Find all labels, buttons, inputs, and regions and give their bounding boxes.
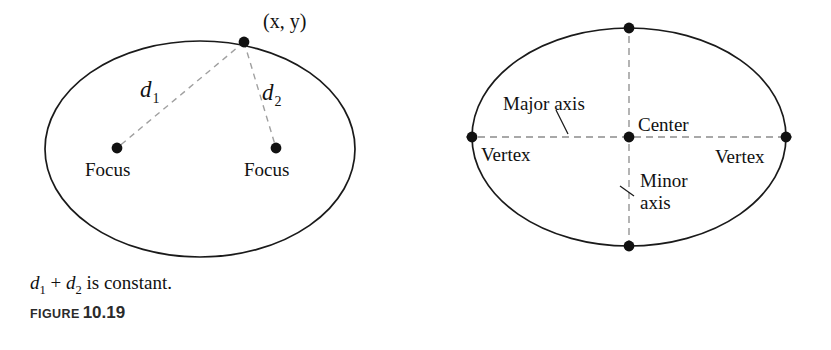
- distance-line-d1: [117, 42, 244, 148]
- d1-label: d1: [140, 77, 160, 106]
- d2-label: d2: [262, 80, 282, 109]
- center-dot: [624, 132, 635, 143]
- note-d1: d: [30, 272, 40, 293]
- focus-right-label: Focus: [244, 159, 289, 180]
- caption-number-left: 10.19: [83, 303, 126, 322]
- ellipse-foci-diagram: (x, y) d1 d2 Focus Focus: [0, 0, 420, 270]
- center-label: Center: [638, 114, 689, 135]
- ellipse-axes-diagram: Major axis Center Vertex Vertex Minor ax…: [420, 0, 831, 290]
- co-vertex-bottom-dot: [624, 241, 635, 252]
- vertex-left-dot: [467, 132, 478, 143]
- ellipse-outline: [45, 41, 355, 257]
- vertex-right-label: Vertex: [715, 146, 765, 167]
- note-tail: is constant.: [82, 272, 172, 293]
- vertex-right-dot: [781, 132, 792, 143]
- point-xy-dot: [239, 37, 250, 48]
- figure-10-19-caption: FIGURE10.19: [30, 303, 125, 323]
- focus-left-label: Focus: [85, 159, 130, 180]
- figure-page: (x, y) d1 d2 Focus Focus d1 + d2 is cons…: [0, 0, 831, 350]
- major-axis-label: Major axis: [503, 93, 585, 114]
- minor-axis-leader-line: [620, 186, 634, 196]
- vertex-left-label: Vertex: [481, 144, 531, 165]
- figure-10-20-panel: Major axis Center Vertex Vertex Minor ax…: [420, 0, 831, 350]
- focus-left-dot: [112, 143, 123, 154]
- minor-axis-label-line1: Minor: [640, 170, 688, 191]
- caption-word-left: FIGURE: [30, 307, 80, 321]
- focus-right-dot: [271, 143, 282, 154]
- note-plus: +: [46, 272, 66, 293]
- figure-10-19-panel: (x, y) d1 d2 Focus Focus d1 + d2 is cons…: [0, 0, 420, 350]
- minor-axis-label-line2: axis: [640, 192, 671, 213]
- point-xy-label: (x, y): [263, 10, 306, 33]
- figure-10-19-note: d1 + d2 is constant.: [30, 272, 172, 298]
- co-vertex-top-dot: [624, 23, 635, 34]
